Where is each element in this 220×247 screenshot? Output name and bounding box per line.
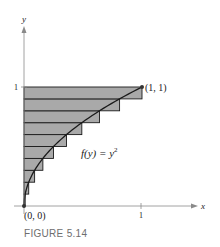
x-axis-label: x xyxy=(200,201,205,211)
x-tick-label: 1 xyxy=(139,211,143,220)
end-point-label: (1, 1) xyxy=(145,82,167,94)
x-axis-arrow-icon xyxy=(191,204,198,209)
y-axis-arrow-icon xyxy=(22,26,27,33)
figure-caption: FIGURE 5.14 xyxy=(24,228,87,239)
origin-point xyxy=(22,204,26,208)
riemann-rectangle xyxy=(24,87,142,99)
riemann-rectangle xyxy=(24,99,120,111)
function-exponent: 2 xyxy=(114,146,118,154)
origin-label: (0, 0) xyxy=(24,210,46,222)
function-label-text: f(y) = y xyxy=(81,147,114,160)
function-label: f(y) = y2 xyxy=(81,146,118,160)
riemann-sum-diagram: x y 1 1 (0, 0) (1, 1) f(y) = y2 xyxy=(0,0,220,247)
y-axis-label: y xyxy=(21,14,26,24)
riemann-rectangle xyxy=(24,158,43,170)
riemann-rectangle xyxy=(24,111,100,123)
y-tick-label: 1 xyxy=(14,83,18,92)
riemann-rectangle xyxy=(24,147,54,159)
end-point xyxy=(140,85,144,89)
